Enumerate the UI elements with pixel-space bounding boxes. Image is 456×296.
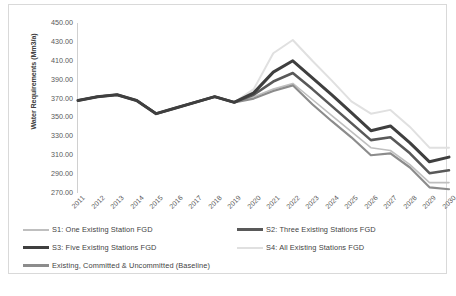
- legend-label: S1: One Existing Station FGD: [52, 225, 153, 234]
- legend-swatch: [23, 264, 49, 266]
- legend-item[interactable]: S3: Five Existing Stations FGD: [23, 243, 156, 252]
- series-canvas: [78, 23, 449, 193]
- legend-swatch: [23, 246, 49, 249]
- y-tick-label: 370.00: [33, 94, 73, 103]
- y-tick-label: 390.00: [33, 75, 73, 84]
- legend-item[interactable]: S2: Three Existing Stations FGD: [237, 225, 376, 234]
- legend-label: S3: Five Existing Stations FGD: [52, 243, 156, 252]
- y-tick-label: 430.00: [33, 37, 73, 46]
- chart-legend: S1: One Existing Station FGDS2: Three Ex…: [23, 225, 453, 277]
- y-tick-label: 350.00: [33, 112, 73, 121]
- y-tick-label: 310.00: [33, 150, 73, 159]
- series-line: [78, 73, 449, 173]
- legend-label: Existing, Committed & Uncommitted (Basel…: [52, 261, 210, 270]
- chart-frame: Water Requirements (Mm3/a) 270.00290.003…: [8, 4, 447, 274]
- legend-label: S4: All Existing Stations FGD: [266, 243, 364, 252]
- legend-swatch: [237, 228, 263, 231]
- legend-item[interactable]: S4: All Existing Stations FGD: [237, 243, 364, 252]
- chart-page: Water Requirements (Mm3/a) 270.00290.003…: [0, 0, 456, 296]
- y-tick-label: 410.00: [33, 56, 73, 65]
- y-tick-label: 450.00: [33, 18, 73, 27]
- legend-label: S2: Three Existing Stations FGD: [266, 225, 376, 234]
- legend-item[interactable]: S1: One Existing Station FGD: [23, 225, 153, 234]
- y-tick-label: 290.00: [33, 169, 73, 178]
- source-note: [20, 286, 22, 293]
- legend-swatch: [23, 229, 49, 231]
- y-tick-label: 330.00: [33, 131, 73, 140]
- legend-item[interactable]: Existing, Committed & Uncommitted (Basel…: [23, 261, 210, 270]
- plot-area: [77, 23, 448, 193]
- y-tick-label: 270.00: [33, 188, 73, 197]
- legend-swatch: [237, 247, 263, 249]
